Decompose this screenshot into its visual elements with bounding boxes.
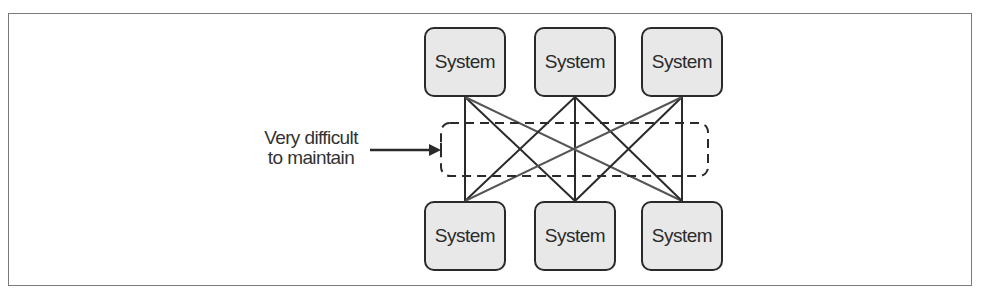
annotation-label: Very difficult to maintain (246, 128, 376, 168)
system-node-top-2: System (534, 27, 616, 97)
system-label: System (435, 51, 495, 73)
system-node-bottom-2: System (534, 201, 616, 271)
annotation-line-2: to maintain (246, 148, 376, 168)
system-node-bottom-1: System (424, 201, 506, 271)
system-label: System (545, 51, 605, 73)
system-node-bottom-3: System (641, 201, 723, 271)
annotation-line-1: Very difficult (246, 128, 376, 148)
system-node-top-1: System (424, 27, 506, 97)
system-label: System (545, 225, 605, 247)
system-label: System (435, 225, 495, 247)
arrow-head-icon (429, 144, 441, 156)
system-label: System (652, 225, 712, 247)
system-node-top-3: System (641, 27, 723, 97)
system-label: System (652, 51, 712, 73)
